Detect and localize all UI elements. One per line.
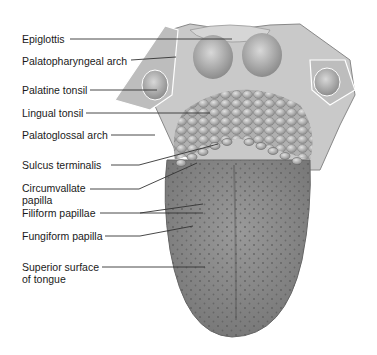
label-filiform-papillae: Filiform papillae — [22, 207, 96, 219]
label-superior-surface-line1: Superior surface — [22, 261, 99, 273]
tongue-illustration — [0, 0, 377, 355]
left-palatine-tonsil — [142, 70, 168, 100]
label-circumvallate-papilla-line1: Circumvallate — [22, 182, 86, 194]
label-epiglottis: Epiglottis — [22, 33, 65, 45]
right-vallecula — [242, 33, 282, 77]
label-fungiform-papilla: Fungiform papilla — [22, 230, 103, 242]
label-superior-surface-line2: of tongue — [22, 273, 66, 285]
left-vallecula — [193, 35, 233, 79]
right-palatine-tonsil — [314, 68, 340, 96]
label-palatoglossal-arch: Palatoglossal arch — [22, 129, 108, 141]
label-palatine-tonsil: Palatine tonsil — [22, 84, 87, 96]
tongue-anatomy-diagram: Epiglottis Palatopharyngeal arch Palatin… — [0, 0, 377, 355]
label-sulcus-terminalis: Sulcus terminalis — [22, 159, 101, 171]
label-circumvallate-papilla-line2: papilla — [22, 194, 52, 206]
label-lingual-tonsil: Lingual tonsil — [22, 107, 83, 119]
label-palatopharyngeal-arch: Palatopharyngeal arch — [22, 55, 127, 67]
